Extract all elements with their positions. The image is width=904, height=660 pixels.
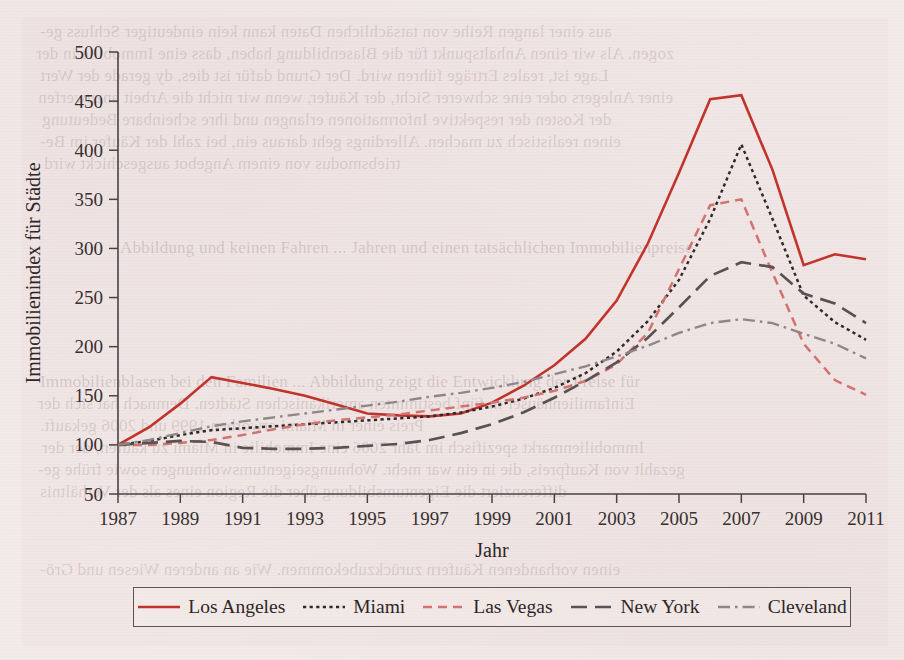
- legend-label: Miami: [353, 596, 405, 618]
- axes: 5010015020025030035040045050019871989199…: [75, 42, 885, 530]
- x-tick-label: 1991: [224, 508, 262, 529]
- chart-legend: Los AngelesMiamiLas VegasNew YorkClevela…: [133, 587, 851, 627]
- x-tick-label: 2001: [535, 508, 573, 529]
- legend-line-swatch: [422, 601, 466, 613]
- legend-entry-miami[interactable]: Miami: [302, 596, 405, 618]
- series-line-las-vegas: [118, 199, 866, 445]
- legend-entry-new-york[interactable]: New York: [570, 596, 700, 618]
- series-line-cleveland: [118, 319, 866, 445]
- data-series: [118, 95, 866, 449]
- series-line-miami: [118, 144, 866, 445]
- legend-entry-las-vegas[interactable]: Las Vegas: [422, 596, 552, 618]
- legend-label: Los Angeles: [188, 596, 285, 618]
- y-tick-label: 250: [75, 287, 104, 308]
- legend-line-swatch: [137, 601, 181, 613]
- x-tick-label: 2005: [660, 508, 698, 529]
- x-tick-label: 1989: [161, 508, 199, 529]
- x-tick-label: 1997: [411, 508, 449, 529]
- x-tick-label: 1987: [99, 508, 137, 529]
- series-line-new-york: [118, 262, 866, 449]
- y-tick-label: 100: [75, 434, 104, 455]
- y-tick-label: 350: [75, 189, 104, 210]
- legend-label: Las Vegas: [473, 596, 552, 618]
- y-tick-label: 500: [75, 42, 104, 63]
- legend-line-swatch: [302, 601, 346, 613]
- x-tick-label: 1993: [286, 508, 324, 529]
- legend-line-swatch: [570, 601, 614, 613]
- series-line-los-angeles: [118, 95, 866, 445]
- y-tick-label: 50: [84, 484, 103, 505]
- y-axis-title: Immobilienindex für Städte: [22, 162, 44, 383]
- y-tick-label: 150: [75, 385, 104, 406]
- y-tick-label: 450: [75, 91, 104, 112]
- axis-lines: [118, 52, 866, 494]
- x-tick-label: 1999: [473, 508, 511, 529]
- x-tick-label: 2011: [847, 508, 884, 529]
- chart-svg: 5010015020025030035040045050019871989199…: [0, 0, 904, 660]
- x-tick-label: 2009: [785, 508, 823, 529]
- x-tick-label: 1995: [348, 508, 386, 529]
- y-tick-label: 300: [75, 238, 104, 259]
- legend-label: Cleveland: [768, 596, 847, 618]
- x-axis-title: Jahr: [475, 539, 509, 561]
- y-tick-label: 200: [75, 336, 104, 357]
- legend-line-swatch: [717, 601, 761, 613]
- legend-entry-cleveland[interactable]: Cleveland: [717, 596, 847, 618]
- house-price-index-line-chart: 5010015020025030035040045050019871989199…: [0, 0, 904, 660]
- x-tick-label: 2007: [722, 508, 760, 529]
- y-tick-label: 400: [75, 140, 104, 161]
- scanned-page: aus einer langen Reihe von tatsächlichen…: [0, 0, 904, 660]
- x-tick-label: 2003: [598, 508, 636, 529]
- legend-label: New York: [621, 596, 700, 618]
- legend-entry-los-angeles[interactable]: Los Angeles: [137, 596, 285, 618]
